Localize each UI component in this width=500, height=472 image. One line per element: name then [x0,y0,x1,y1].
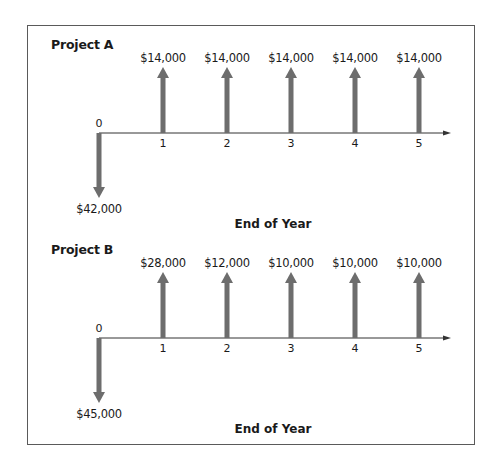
inflow-arrow-5 [417,76,422,133]
project-title: Project A [51,37,113,52]
arrow-up-icon [349,67,361,78]
arrow-up-icon [221,67,233,78]
x-axis-label: End of Year [235,422,312,436]
outflow-arrow [97,338,102,394]
inflow-label: $10,000 [396,256,441,270]
inflow-label: $28,000 [140,256,185,270]
arrow-up-icon [413,272,425,283]
project-b-panel: Project B $28,000 $12,000 $10,000 $10,00… [0,205,500,415]
tick-label: 4 [352,342,359,355]
tick-label: 1 [160,137,167,150]
inflow-arrow-5 [417,281,422,338]
outflow-label: $45,000 [76,407,121,421]
tick-label: 5 [416,137,423,150]
arrow-up-icon [285,272,297,283]
project-title: Project B [51,242,113,257]
inflow-arrow-4 [353,281,358,338]
inflow-arrow-2 [225,281,230,338]
tick-label: 3 [288,137,295,150]
arrow-up-icon [413,67,425,78]
arrow-up-icon [221,272,233,283]
tick-label: 3 [288,342,295,355]
inflow-label: $10,000 [268,256,313,270]
inflow-arrow-1 [161,281,166,338]
tick-label: 0 [96,117,103,130]
inflow-label: $14,000 [268,51,313,65]
inflow-arrow-3 [289,76,294,133]
project-b-timeline [0,205,500,415]
axis-arrowhead-icon [443,131,451,136]
project-a-timeline [0,0,500,210]
inflow-arrow-4 [353,76,358,133]
tick-label: 0 [96,322,103,335]
tick-label: 5 [416,342,423,355]
inflow-label: $14,000 [140,51,185,65]
tick-label: 4 [352,137,359,150]
arrow-down-icon [93,187,105,198]
inflow-label: $12,000 [204,256,249,270]
project-a-panel: Project A $14,000 $14,000 $14,000 $14,00… [0,0,500,210]
inflow-label: $14,000 [396,51,441,65]
arrow-up-icon [157,272,169,283]
inflow-label: $10,000 [332,256,377,270]
tick-label: 2 [224,342,231,355]
outflow-arrow [97,133,102,189]
arrow-up-icon [349,272,361,283]
arrow-down-icon [93,392,105,403]
inflow-label: $14,000 [204,51,249,65]
tick-label: 2 [224,137,231,150]
arrow-up-icon [157,67,169,78]
axis-arrowhead-icon [443,336,451,341]
tick-label: 1 [160,342,167,355]
inflow-arrow-2 [225,76,230,133]
arrow-up-icon [285,67,297,78]
inflow-arrow-3 [289,281,294,338]
inflow-arrow-1 [161,76,166,133]
inflow-label: $14,000 [332,51,377,65]
